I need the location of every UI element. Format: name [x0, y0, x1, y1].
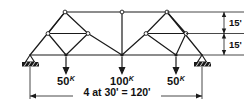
load-label-right: 50K [167, 75, 186, 87]
support-left-triangle [26, 55, 35, 62]
truss-diagram-figure: 50K 100K 50K 15' 15' [0, 0, 249, 107]
vertical-dimension-lower-label: 15' [229, 39, 242, 50]
web-right-upper-right [167, 12, 186, 34]
joint-top-center [120, 10, 124, 14]
load-right-unit: K [180, 75, 186, 82]
arrow-down-upper [222, 29, 226, 34]
load-label-left: 50K [57, 75, 76, 87]
joint-mid-right-inner [144, 32, 148, 36]
web-left-lower-right [66, 34, 88, 56]
load-center-unit: K [129, 75, 135, 82]
truss-members [30, 12, 202, 55]
arrow-up-upper [222, 12, 226, 17]
web-left-upper-right [65, 12, 88, 34]
web-center-left-diagonal [88, 34, 122, 56]
arrow-down-lower [222, 50, 226, 55]
web-right-upper-left [146, 12, 167, 34]
joint-mid-left-inner [86, 32, 90, 36]
joint-mid-left-outer [46, 32, 50, 36]
support-left [22, 55, 39, 67]
joint-top-left-apex [63, 10, 67, 14]
joint-bottom-right-panel [174, 53, 177, 56]
joint-bottom-center [120, 53, 123, 56]
arrow-left-span [30, 94, 36, 99]
arrow-right-span [196, 94, 202, 99]
load-right-value: 50 [167, 75, 180, 87]
truss-drawing: 50K 100K 50K 15' 15' [0, 0, 249, 107]
support-right-triangle [198, 55, 207, 62]
load-left-unit: K [70, 75, 76, 82]
span-dimension-label: 4 at 30' = 120' [83, 86, 150, 98]
load-arrow-center [119, 57, 124, 74]
load-left-value: 50 [57, 75, 70, 87]
load-arrow-right [173, 57, 178, 74]
support-right [194, 55, 211, 67]
joint-bottom-left-panel [64, 53, 67, 56]
web-right-lower-right [176, 34, 186, 56]
load-arrow-left [63, 57, 68, 74]
vertical-dimension-upper-label: 15' [229, 17, 242, 28]
web-center-right-diagonal [122, 34, 146, 56]
web-right-lower-left [146, 34, 176, 56]
load-arrows [63, 57, 178, 74]
web-left-upper-left [48, 12, 65, 34]
web-left-lower-left [48, 34, 66, 56]
arrow-up-lower [222, 34, 226, 39]
